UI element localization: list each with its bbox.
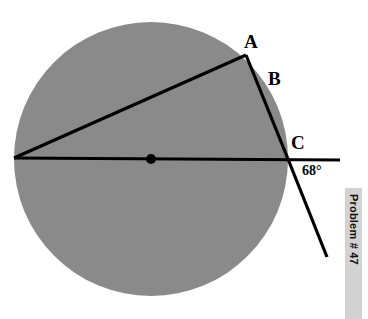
diameter-line — [14, 158, 340, 160]
problem-number-strip: Problem # 47 — [345, 188, 362, 319]
label-point-a: A — [244, 32, 258, 51]
problem-number-text: Problem # 47 — [348, 194, 360, 265]
geometry-figure: A B C 68° Problem # 47 — [0, 0, 368, 319]
label-point-b: B — [268, 69, 281, 88]
geometry-canvas — [0, 0, 368, 319]
label-point-c: C — [291, 133, 305, 152]
circle-center-dot — [146, 154, 156, 164]
label-angle-measure: 68° — [302, 164, 322, 178]
